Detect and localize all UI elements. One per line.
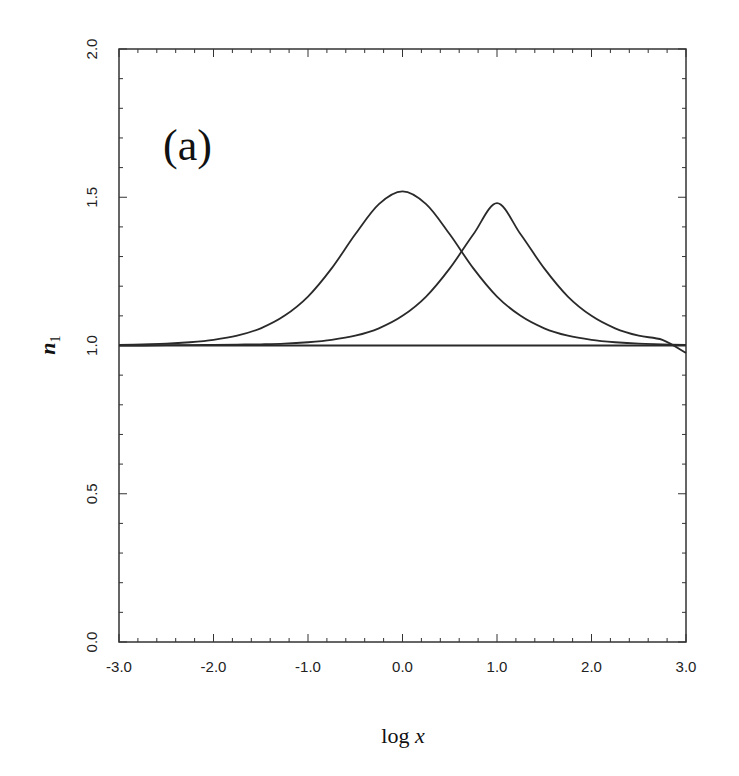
panel-label: (a) [163, 121, 212, 170]
x-tick-label: -2.0 [201, 658, 227, 675]
svg-text:n1: n1 [35, 335, 63, 354]
x-tick-label: 1.0 [487, 658, 508, 675]
chart: -3.0-2.0-1.00.01.02.03.00.00.51.01.52.0 … [0, 0, 739, 776]
x-tick-label: 3.0 [676, 658, 697, 675]
x-tick-label: -3.0 [106, 658, 132, 675]
lower-curve [119, 203, 686, 353]
y-tick-label: 2.0 [83, 39, 100, 60]
x-tick-label: 0.0 [392, 658, 413, 675]
y-axis-label: n1 [35, 335, 63, 354]
y-tick-label: 0.0 [83, 632, 100, 653]
y-tick-label: 1.5 [83, 187, 100, 208]
x-tick-label: 2.0 [581, 658, 602, 675]
x-axis-label: log x [381, 723, 425, 748]
y-tick-label: 1.0 [83, 335, 100, 356]
x-tick-label: -1.0 [295, 658, 321, 675]
x-axis-label-var: x [414, 723, 425, 748]
data-series [119, 191, 686, 353]
y-tick-label: 0.5 [83, 483, 100, 504]
x-axis-label-log: log [381, 723, 415, 748]
